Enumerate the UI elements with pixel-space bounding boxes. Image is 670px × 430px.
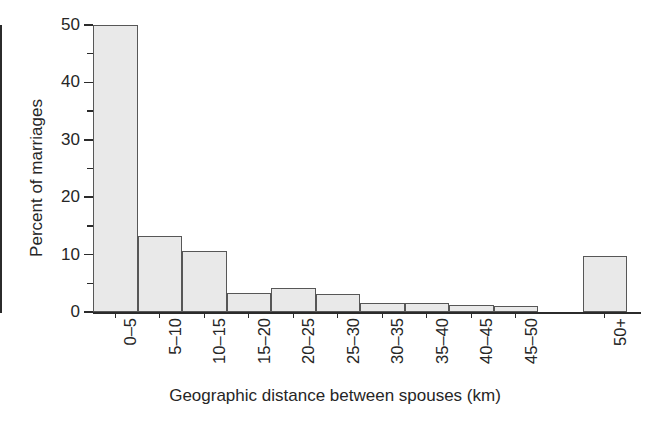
histogram-bar bbox=[93, 25, 138, 312]
histogram-bar bbox=[405, 303, 450, 312]
x-axis-tick-labels: 0–55–1010–1515–2020–2525–3030–3535–4040–… bbox=[93, 318, 640, 380]
histogram-bar bbox=[138, 236, 183, 312]
y-axis-line bbox=[0, 25, 2, 313]
histogram-figure: Percent of marriages 01020304050 0–55–10… bbox=[0, 0, 670, 430]
histogram-bar bbox=[271, 288, 316, 312]
y-tick-major bbox=[84, 311, 93, 313]
y-tick-label: 10 bbox=[61, 245, 80, 265]
y-tick-label: 30 bbox=[61, 130, 80, 150]
x-axis-title: Geographic distance between spouses (km) bbox=[0, 386, 670, 406]
x-tick-label: 35–40 bbox=[433, 318, 452, 364]
y-tick-major bbox=[84, 24, 93, 26]
y-tick-label: 40 bbox=[61, 72, 80, 92]
histogram-bar bbox=[316, 294, 361, 312]
histogram-bar bbox=[227, 293, 272, 312]
bars-container bbox=[93, 25, 640, 312]
x-tick-label: 30–35 bbox=[388, 318, 407, 364]
y-tick-label: 0 bbox=[71, 302, 80, 322]
y-tick-label: 50 bbox=[61, 15, 80, 35]
histogram-bar bbox=[449, 305, 494, 312]
y-axis-ticks: 01020304050 bbox=[0, 0, 93, 430]
y-tick-major bbox=[84, 82, 93, 84]
x-tick-label: 10–15 bbox=[210, 318, 229, 364]
x-tick-label: 20–25 bbox=[299, 318, 318, 364]
x-tick-label: 45–50 bbox=[522, 318, 541, 364]
y-tick-label: 20 bbox=[61, 187, 80, 207]
histogram-bar bbox=[182, 251, 227, 312]
x-tick-label: 40–45 bbox=[477, 318, 496, 364]
x-tick-label: 15–20 bbox=[255, 318, 274, 364]
histogram-bar bbox=[360, 303, 405, 312]
y-tick-major bbox=[84, 196, 93, 198]
x-tick-label: 5–10 bbox=[166, 318, 185, 355]
histogram-bar bbox=[583, 256, 628, 312]
y-tick-major bbox=[84, 139, 93, 141]
x-tick-label: 0–5 bbox=[121, 318, 140, 346]
x-tick-label: 50+ bbox=[611, 318, 630, 346]
x-tick-label: 25–30 bbox=[344, 318, 363, 364]
y-tick-major bbox=[84, 254, 93, 256]
